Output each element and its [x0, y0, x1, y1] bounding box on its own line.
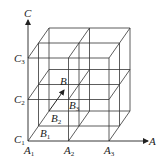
b-axis-arrow	[49, 90, 64, 111]
a-tick-1: A1	[24, 145, 34, 158]
a-tick-3: A3	[104, 145, 114, 158]
c-tick-2: C2	[14, 94, 25, 107]
b-axis-label: B	[60, 76, 67, 87]
b-tick-3: B3	[69, 100, 79, 113]
a-tick-2: A2	[64, 145, 74, 158]
c-tick-3: C3	[14, 53, 25, 66]
cube-grid-lines	[28, 28, 130, 141]
c-axis-label: C	[24, 8, 31, 19]
b-tick-1: B1	[40, 128, 50, 141]
b-tick-2: B2	[51, 113, 61, 126]
a-axis-label: A	[149, 136, 156, 147]
